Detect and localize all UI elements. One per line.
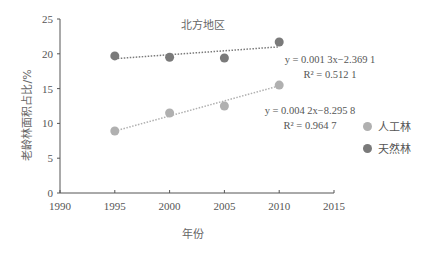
trendline: [115, 86, 279, 131]
data-point: [275, 37, 284, 46]
x-tick-label: 2010: [268, 200, 291, 212]
legend-label: 天然林: [378, 140, 411, 156]
legend-label: 人工林: [378, 118, 411, 134]
r-squared-label: R² = 0.512 1: [304, 69, 357, 80]
data-point: [220, 53, 229, 62]
y-tick-label: 15: [42, 83, 54, 95]
x-tick-label: 1990: [49, 200, 72, 212]
legend-item-natural: 天然林: [363, 137, 411, 159]
y-tick-label: 25: [42, 13, 54, 25]
y-tick-label: 5: [48, 152, 54, 164]
x-axis-label: 年份: [182, 227, 204, 241]
data-point: [110, 51, 119, 60]
circle-marker-icon: [363, 144, 372, 153]
data-point: [110, 127, 119, 136]
y-axis-label: 老龄林面积占比/%: [20, 69, 34, 160]
data-point: [220, 102, 229, 111]
legend-item-planted: 人工林: [363, 115, 411, 137]
y-tick-label: 20: [42, 48, 54, 60]
x-tick-label: 2000: [159, 200, 182, 212]
circle-marker-icon: [363, 122, 372, 131]
trendline: [115, 47, 279, 59]
y-tick-label: 10: [42, 117, 54, 129]
data-point: [165, 53, 174, 62]
y-tick-label: 0: [48, 187, 54, 199]
legend: 人工林 天然林: [363, 115, 411, 159]
x-tick-label: 2015: [323, 200, 346, 212]
plot-area: y = 0.001 3x−2.369 1R² = 0.512 1y = 0.00…: [110, 37, 375, 135]
x-tick-label: 1995: [104, 200, 127, 212]
data-point: [165, 108, 174, 117]
chart-title: 北方地区: [181, 18, 225, 32]
chart-canvas: 0510152025199019952000200520102015 y = 0…: [0, 0, 423, 253]
r-squared-label: R² = 0.964 7: [284, 120, 337, 131]
trendline-equation: y = 0.001 3x−2.369 1: [285, 54, 376, 65]
trendline-equation: y = 0.004 2x−8.295 8: [265, 105, 356, 116]
x-tick-label: 2005: [213, 200, 236, 212]
data-point: [275, 81, 284, 90]
